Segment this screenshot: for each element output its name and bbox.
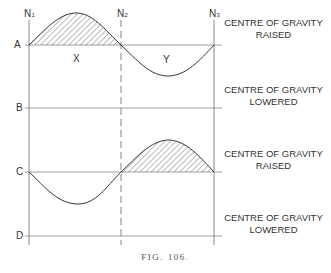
side-label-a: CENTRE OF GRAVITY RAISED — [216, 17, 331, 41]
hatched-crest-x — [29, 13, 121, 45]
side-label-c: CENTRE OF GRAVITY RAISED — [216, 148, 331, 172]
level-label-b: B — [16, 102, 23, 113]
side-label-b: CENTRE OF GRAVITY LOWERED — [216, 84, 331, 108]
level-label-c: C — [16, 166, 23, 177]
region-label-y: Y — [163, 54, 170, 65]
level-label-d: D — [16, 230, 23, 241]
level-label-a: A — [14, 39, 21, 50]
node-label-n1: N1 — [24, 8, 35, 19]
node-label-n2: N2 — [117, 8, 128, 19]
hatched-crest-lower — [121, 140, 214, 172]
figure-caption: FIG. 106. — [0, 252, 331, 262]
side-label-d: CENTRE OF GRAVITY LOWERED — [216, 212, 331, 236]
region-label-x: X — [73, 53, 80, 64]
